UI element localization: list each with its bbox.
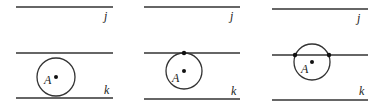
center-label-a: A (300, 62, 309, 76)
center-point-a (182, 69, 186, 73)
line-j-label: j (228, 9, 234, 23)
geometry-diagram: jkAjkAjkA (0, 0, 379, 112)
line-k-label: k (231, 84, 237, 98)
line-k-label: k (104, 83, 110, 97)
panel-3: jkA (272, 9, 368, 100)
center-point-a (310, 60, 314, 64)
intersection-point (327, 53, 331, 57)
center-point-a (54, 75, 58, 79)
intersection-point (182, 51, 186, 55)
intersection-point (293, 53, 297, 57)
line-j-label: j (355, 11, 361, 25)
line-k-label: k (359, 84, 365, 98)
center-label-a: A (171, 71, 180, 85)
center-label-a: A (43, 73, 52, 87)
panel-2: jkA (144, 7, 240, 99)
line-j-label: j (102, 9, 108, 23)
panel-1: jkA (16, 7, 113, 98)
